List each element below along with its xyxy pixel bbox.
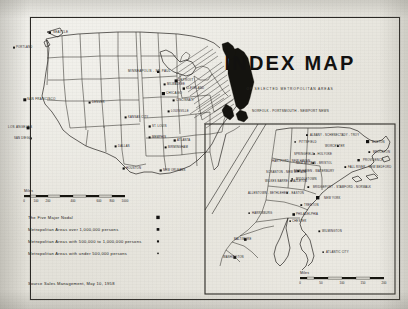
main-scale-tick: 0 [23,199,25,203]
main-map-city-label: SAN DIEGO [14,136,31,140]
map-border-frame [30,17,400,300]
scanned-map-page: SEATTLEPORTLANDSAN FRANCISCOLOS ANGELESS… [0,0,408,309]
main-map-city-label: LOS ANGELES [8,125,32,129]
